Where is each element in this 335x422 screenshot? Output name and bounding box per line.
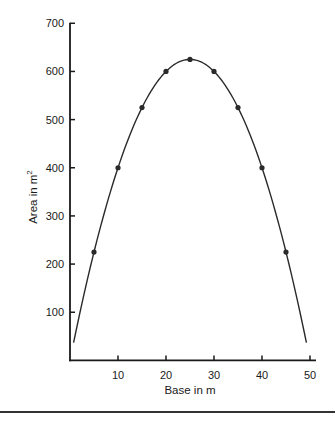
data-points	[91, 57, 288, 255]
data-point	[187, 57, 192, 62]
y-tick-label: 300	[46, 210, 64, 222]
x-axis: 1020304050	[69, 355, 316, 381]
y-tick-label: 600	[46, 65, 64, 77]
area-curve	[74, 59, 307, 342]
y-tick-label: 100	[46, 306, 64, 318]
data-point	[115, 165, 120, 170]
data-point	[283, 249, 288, 254]
data-point	[139, 105, 144, 110]
data-point	[211, 69, 216, 74]
x-tick-label: 30	[208, 369, 220, 381]
y-tick-label: 200	[46, 258, 64, 270]
y-tick-label: 700	[46, 17, 64, 29]
y-tick-label: 500	[46, 114, 64, 126]
x-tick-label: 50	[304, 369, 316, 381]
data-point	[163, 69, 168, 74]
y-tick-label: 400	[46, 162, 64, 174]
bottom-divider	[0, 411, 335, 413]
superscript-2: 2	[25, 170, 34, 175]
x-tick-label: 20	[160, 369, 172, 381]
data-point	[91, 249, 96, 254]
y-axis: 100200300400500600700	[46, 17, 75, 361]
data-point	[259, 165, 264, 170]
y-axis-title: Area in m2	[25, 170, 39, 224]
data-point	[235, 105, 240, 110]
x-tick-label: 10	[112, 369, 124, 381]
x-axis-title: Base in m	[164, 384, 215, 396]
parabola-chart: 100200300400500600700 1020304050 Base in…	[0, 0, 335, 422]
x-tick-label: 40	[256, 369, 268, 381]
